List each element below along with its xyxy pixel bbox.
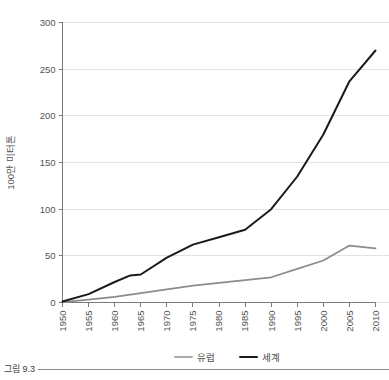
legend-group: 유럽세계: [175, 352, 280, 363]
y-axis-title-group: 100만 미터톤: [5, 135, 16, 190]
y-tick-label-50: 50: [45, 250, 56, 261]
line-chart: 050100150200250300 195019551960196519701…: [0, 0, 389, 380]
x-tick-label-1950: 1950: [57, 311, 68, 332]
y-tick-label-150: 150: [40, 157, 56, 168]
y-tick-label-200: 200: [40, 110, 56, 121]
x-tick-label-2005: 2005: [344, 311, 355, 332]
x-tick-label-1965: 1965: [135, 311, 146, 332]
x-tick-label-2010: 2010: [370, 311, 381, 332]
series-group: [63, 51, 376, 303]
x-tick-label-1995: 1995: [292, 311, 303, 332]
figure-caption-label: 그림 9.3: [4, 363, 35, 374]
x-tick-label-1985: 1985: [239, 311, 250, 332]
x-tick-group: 1950195519601965197019751980198519901995…: [57, 303, 381, 332]
y-axis-title: 100만 미터톤: [5, 135, 16, 190]
legend-label-europe: 유럽: [197, 352, 215, 363]
x-tick-label-1955: 1955: [83, 311, 94, 332]
legend-label-world: 세계: [262, 352, 280, 363]
series-line-world: [63, 51, 376, 302]
x-tick-label-1990: 1990: [266, 311, 277, 332]
x-tick-label-2000: 2000: [318, 311, 329, 332]
y-tick-group: 050100150200250300: [40, 17, 63, 308]
y-tick-label-250: 250: [40, 64, 56, 75]
y-tick-label-300: 300: [40, 17, 56, 28]
caption-group: 그림 9.3: [4, 363, 389, 374]
x-tick-label-1975: 1975: [187, 311, 198, 332]
x-tick-label-1980: 1980: [213, 311, 224, 332]
x-tick-label-1970: 1970: [161, 311, 172, 332]
y-tick-label-100: 100: [40, 204, 56, 215]
gridlines-group: [63, 23, 389, 303]
series-line-europe: [63, 246, 376, 302]
figure-container: 050100150200250300 195019551960196519701…: [0, 0, 389, 380]
x-tick-label-1960: 1960: [109, 311, 120, 332]
y-tick-label-0: 0: [50, 297, 55, 308]
